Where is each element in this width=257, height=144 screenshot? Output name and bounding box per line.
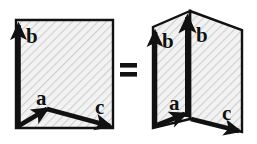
left-label-a: a [36, 86, 47, 110]
right-label-a: a [169, 91, 180, 115]
equals-sign-group: = [120, 63, 137, 77]
left-panel-group: b a c [16, 20, 113, 128]
vector-diagram-canvas: b a c = b b [0, 0, 257, 144]
right-label-c: c [222, 101, 231, 125]
vector-diagram-figure: b a c = b b [0, 0, 257, 144]
equals-bar-bottom [120, 72, 137, 77]
right-label-b-fold: b [196, 23, 208, 47]
right-panel-group: b b a c [153, 11, 242, 132]
left-label-b: b [26, 24, 38, 48]
right-label-b-left: b [162, 29, 174, 53]
left-label-c: c [95, 95, 104, 119]
equals-bar-top [120, 63, 137, 68]
